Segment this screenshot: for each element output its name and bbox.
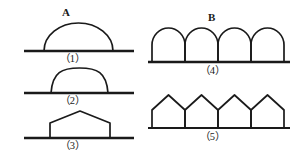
figure-3-house-outline — [50, 111, 110, 138]
figure-3-caption: （3） — [60, 141, 85, 152]
figure-5-roof-1 — [152, 95, 185, 128]
figure-4-arch-2 — [185, 28, 218, 62]
group-label-b: B — [208, 12, 216, 23]
figure-5-caption: （5） — [200, 132, 225, 143]
figure-2-group — [24, 68, 134, 93]
shape-diagram-svg — [0, 0, 299, 161]
figure-4-caption: （4） — [200, 66, 225, 77]
group-label-a: A — [62, 7, 70, 18]
figure-4-group — [148, 28, 290, 62]
figure-4-arch-4 — [251, 28, 284, 62]
figure-5-roof-4 — [251, 95, 284, 128]
figure-5-group — [148, 95, 290, 128]
figure-5-roof-2 — [185, 95, 218, 128]
figure-1-group — [24, 23, 134, 51]
figure-canvas: A B （1） （2） （3） （4） （5） — [0, 0, 299, 161]
figure-5-roof-3 — [218, 95, 251, 128]
figure-1-arch-curve — [44, 23, 113, 51]
figure-2-dome-curve — [51, 68, 108, 93]
figure-4-arch-1 — [152, 28, 185, 62]
figure-4-arch-3 — [218, 28, 251, 62]
figure-3-group — [24, 111, 134, 138]
figure-1-caption: （1） — [60, 54, 85, 65]
figure-2-caption: （2） — [60, 96, 85, 107]
